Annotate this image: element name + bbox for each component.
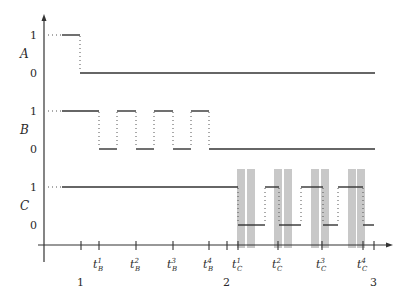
signal-c-low-label: 0 xyxy=(30,219,37,232)
svg-text:t4C: t4C xyxy=(357,257,368,273)
svg-text:t2B: t2B xyxy=(130,257,140,273)
shaded-interval xyxy=(311,169,319,248)
signal-b-label: B xyxy=(19,123,29,137)
signal-c: C 1 0 xyxy=(20,181,374,232)
x-axis-arrow-icon xyxy=(386,243,393,248)
major-label-3: 3 xyxy=(370,276,377,289)
tick-label-tb3: t3B xyxy=(167,257,177,273)
y-axis-arrow-icon xyxy=(42,14,47,21)
major-label-1: 1 xyxy=(77,276,84,289)
svg-text:t1B: t1B xyxy=(93,257,103,273)
major-labels: 1 2 3 xyxy=(77,276,377,289)
timing-diagram: A 1 0 B 1 0 C 1 0 xyxy=(0,0,410,304)
major-label-2: 2 xyxy=(223,276,230,289)
tick-label-tc1: t1C xyxy=(232,257,243,273)
signal-a-low-label: 0 xyxy=(30,67,37,80)
shaded-interval xyxy=(274,169,282,248)
shaded-interval xyxy=(321,169,329,248)
shaded-interval xyxy=(357,169,365,248)
signal-b-low-label: 0 xyxy=(30,143,37,156)
shaded-interval xyxy=(348,169,356,248)
signal-a-label: A xyxy=(19,47,29,61)
svg-text:t3C: t3C xyxy=(316,257,327,273)
svg-text:t3B: t3B xyxy=(167,257,177,273)
svg-text:t2C: t2C xyxy=(272,257,283,273)
tick-label-tc4: t4C xyxy=(357,257,368,273)
svg-text:t4B: t4B xyxy=(203,257,213,273)
tick-labels: t1B t2B t3B t4B t1C t2C t3C t4C xyxy=(93,257,368,273)
signal-c-label: C xyxy=(20,199,29,213)
signal-a: A 1 0 xyxy=(19,29,375,80)
signal-c-high-label: 1 xyxy=(30,181,37,194)
signal-b: B 1 0 xyxy=(19,105,375,156)
tick-label-tb4: t4B xyxy=(203,257,213,273)
tick-label-tb2: t2B xyxy=(130,257,140,273)
tick-label-tc3: t3C xyxy=(316,257,327,273)
signal-a-high-label: 1 xyxy=(30,29,37,42)
svg-text:t1C: t1C xyxy=(232,257,243,273)
shaded-interval xyxy=(284,169,292,248)
signal-b-high-label: 1 xyxy=(30,105,37,118)
tick-label-tc2: t2C xyxy=(272,257,283,273)
axes xyxy=(38,14,393,262)
shaded-interval xyxy=(247,169,255,248)
tick-label-tb1: t1B xyxy=(93,257,103,273)
